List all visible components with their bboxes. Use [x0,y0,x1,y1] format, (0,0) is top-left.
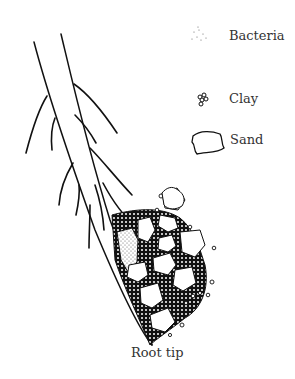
root-soil-diagram [0,0,295,379]
clay-cluster-icon [198,93,208,106]
legend-label-sand: Sand [230,133,263,146]
legend-label-bacteria: Bacteria [229,29,285,42]
caption-root-tip: Root tip [131,346,184,359]
legend-label-clay: Clay [229,92,258,105]
sand-grain-icon [192,132,224,154]
loose-sand-grain [162,187,184,208]
dots-icon [191,26,206,40]
soil-aggregate [112,188,216,345]
